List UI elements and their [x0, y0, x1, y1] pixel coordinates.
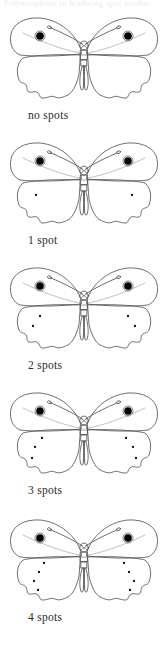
specimen-caption-1: 1 spot: [0, 233, 168, 247]
specimen-caption-0: no spots: [0, 108, 168, 122]
butterfly-drawing-1-spots: [0, 133, 168, 233]
specimen-group-2-spots: 2 spots: [0, 258, 168, 372]
butterfly-drawing-0-spots: [0, 8, 168, 108]
specimen-group-4-spots: 4 spots: [0, 510, 168, 624]
butterfly-drawing-4-spots: [0, 510, 168, 610]
figure-sheet: Polymorphism in hindwing spot number no …: [0, 0, 168, 647]
specimen-caption-2: 2 spots: [0, 358, 168, 372]
specimen-group-0-spots: no spots: [0, 8, 168, 122]
specimen-group-1-spots: 1 spot: [0, 133, 168, 247]
cut-off-caption-text: Polymorphism in hindwing spot number: [4, 0, 151, 8]
specimen-caption-4: 4 spots: [0, 610, 168, 624]
specimen-group-3-spots: 3 spots: [0, 383, 168, 497]
butterfly-drawing-2-spots: [0, 258, 168, 358]
specimen-caption-3: 3 spots: [0, 483, 168, 497]
butterfly-drawing-3-spots: [0, 383, 168, 483]
